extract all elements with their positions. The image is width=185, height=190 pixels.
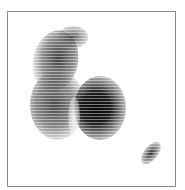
- scan-image-frame: [7, 11, 176, 187]
- right-uptake-region: [74, 76, 126, 140]
- central-gap: [68, 97, 80, 137]
- small-focal-spot: [137, 138, 164, 167]
- upper-tip-region: [58, 26, 88, 48]
